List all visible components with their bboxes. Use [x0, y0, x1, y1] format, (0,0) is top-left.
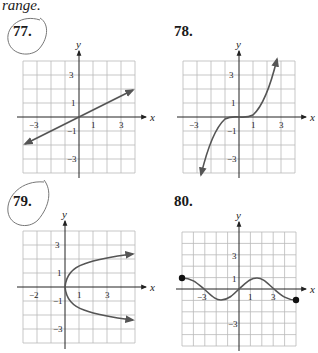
- svg-text:1: 1: [248, 292, 253, 302]
- svg-text:1: 1: [71, 98, 76, 108]
- y-axis-label: y: [75, 38, 81, 50]
- svg-text:y: y: [61, 208, 67, 220]
- svg-text:3: 3: [279, 120, 284, 130]
- svg-text:−3: −3: [53, 324, 63, 334]
- svg-text:−2: −2: [29, 290, 39, 300]
- closed-endpoint-right: [293, 297, 299, 303]
- pen-circle-79: [8, 180, 49, 226]
- svg-text:3: 3: [69, 70, 74, 80]
- svg-text:y: y: [235, 209, 241, 221]
- closed-endpoint-left: [179, 275, 185, 281]
- svg-text:3: 3: [55, 240, 60, 250]
- svg-text:3: 3: [232, 251, 237, 261]
- svg-text:x: x: [149, 281, 155, 293]
- svg-text:3: 3: [229, 70, 234, 80]
- svg-text:−3: −3: [67, 154, 77, 164]
- svg-text:1: 1: [232, 274, 237, 284]
- svg-text:−1: −1: [67, 126, 77, 136]
- svg-text:−3: −3: [189, 120, 199, 130]
- svg-text:y: y: [235, 38, 241, 50]
- svg-text:x: x: [309, 283, 315, 295]
- svg-text:−1: −1: [53, 296, 63, 306]
- svg-text:−3: −3: [228, 319, 238, 329]
- x-axis-label: x: [149, 111, 155, 123]
- svg-text:1: 1: [57, 268, 62, 278]
- graph-78: x y −3 1 3 3 1 −1 −3: [177, 38, 315, 178]
- svg-text:1: 1: [251, 120, 256, 130]
- svg-text:1: 1: [91, 120, 96, 130]
- figure-canvas: x y −3 1 3 3 1 −1 −3 x y −3 1 3 3 1 −1 −…: [0, 0, 318, 353]
- pen-circle-77: [8, 18, 47, 54]
- svg-text:−1: −1: [227, 126, 237, 136]
- svg-text:3: 3: [119, 120, 124, 130]
- svg-text:1: 1: [231, 98, 236, 108]
- svg-text:−3: −3: [197, 292, 207, 302]
- svg-text:1: 1: [77, 290, 82, 300]
- svg-text:3: 3: [271, 292, 276, 302]
- svg-text:3: 3: [105, 290, 110, 300]
- graph-80: x y −3 1 3 3 1 −3: [176, 209, 315, 351]
- graph-79: x y −2 1 3 3 1 −1 −3: [17, 208, 155, 349]
- graph-77: x y −3 1 3 3 1 −1 −3: [17, 38, 155, 178]
- svg-text:x: x: [309, 111, 315, 123]
- svg-text:−3: −3: [227, 154, 237, 164]
- svg-text:−3: −3: [29, 120, 39, 130]
